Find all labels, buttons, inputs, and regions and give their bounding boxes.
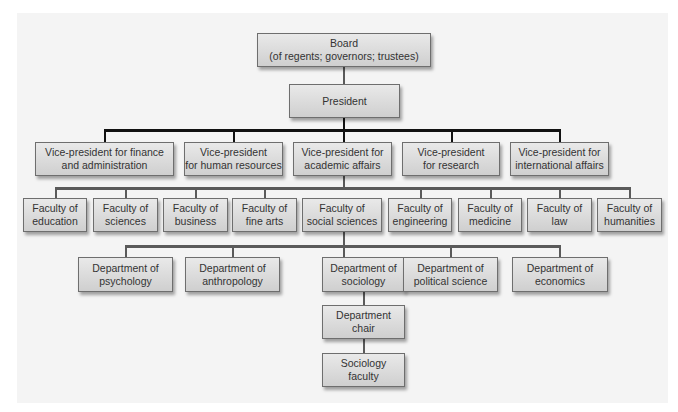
vp-label: Vice-president for finance and administr… [45,146,164,172]
vp-bar [104,129,561,132]
board-box: Board (of regents; governors; trustees) [257,33,431,67]
faculty-bar [55,187,631,190]
sociology-faculty-box: Sociology faculty [322,353,405,387]
faculty-drop [559,187,561,198]
faculty-business-box: Faculty of business [163,198,228,232]
department-label: Department of political science [414,262,488,288]
faculty-label: Faculty of engineering [393,202,448,228]
president-box: President [289,84,400,118]
faculty-medicine-box: Faculty of medicine [458,198,522,232]
vp-finance-box: Vice-president for finance and administr… [35,142,174,176]
faculty-drop [125,187,127,198]
faculty-drop [420,187,422,198]
department-drop [125,245,127,257]
faculty-sciences-box: Faculty of sciences [93,198,158,232]
department-label: Department of psychology [92,262,159,288]
vp-international-box: Vice-president for international affairs [510,142,609,176]
faculty-label: Faculty of humanities [604,202,655,228]
vp-drop [104,129,106,142]
faculty-engineering-box: Faculty of engineering [388,198,452,232]
dept-psychology-box: Department of psychology [78,257,173,292]
board-label: Board (of regents; governors; trustees) [269,37,418,63]
faculty-drop [490,187,492,198]
sociology-faculty-label: Sociology faculty [341,357,387,383]
vp-drop [451,129,453,142]
department-drop [232,245,234,257]
faculty-drop [264,187,266,198]
department-label: Department of economics [527,262,594,288]
chair-label: Department chair [336,309,391,335]
vp-hr-box: Vice-president for human resources [184,142,283,176]
vp-label: Vice-president for academic affairs [301,146,383,172]
department-label: Department of sociology [330,262,397,288]
vp-drop [559,129,561,142]
faculty-label: Faculty of business [173,202,219,228]
dept-economics-box: Department of economics [512,257,608,292]
faculty-label: Faculty of education [32,202,78,228]
faculty-drop [629,187,631,198]
faculty-fine-arts-box: Faculty of fine arts [232,198,297,232]
faculty-label: Faculty of medicine [467,202,513,228]
vp-label: Vice-president for international affairs [515,146,604,172]
faculty-humanities-box: Faculty of humanities [597,198,662,232]
vp-research-box: Vice-president for research [402,142,500,176]
department-bar [125,245,561,248]
vp-label: Vice-president for human resources [185,146,281,172]
vp-label: Vice-president for research [418,146,485,172]
faculty-law-box: Faculty of law [527,198,592,232]
faculty-label: Faculty of sciences [103,202,149,228]
vp-drop [343,129,345,142]
faculty-drop [55,187,57,198]
dept-anthropology-box: Department of anthropology [185,257,280,292]
faculty-label: Faculty of social sciences [307,202,378,228]
dept-sociology-box: Department of sociology [322,257,405,292]
vp-academic-box: Vice-president for academic affairs [293,142,392,176]
department-chair-box: Department chair [322,305,405,339]
department-label: Department of anthropology [199,262,266,288]
dept-political-science-box: Department of political science [403,257,498,292]
department-drop [450,245,452,257]
connector-board-president [343,67,345,84]
faculty-social-sciences-box: Faculty of social sciences [302,198,382,232]
president-label: President [322,95,366,108]
faculty-label: Faculty of fine arts [242,202,288,228]
connector-chair-faculty [363,339,365,353]
department-drop [559,245,561,257]
faculty-drop [195,187,197,198]
faculty-education-box: Faculty of education [23,198,87,232]
faculty-label: Faculty of law [537,202,583,228]
vp-drop [233,129,235,142]
connector-sociology-chair [363,292,365,305]
